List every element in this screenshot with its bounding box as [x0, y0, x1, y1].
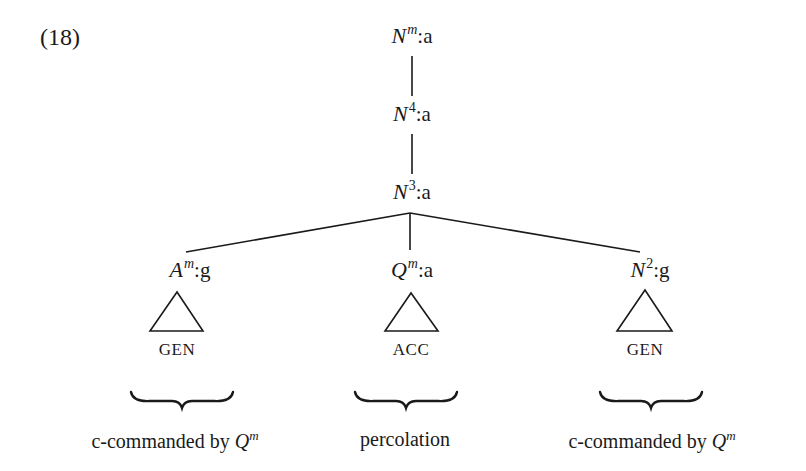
underbrace-icon [355, 392, 457, 408]
annotation-right-sup: m [726, 428, 735, 443]
annotation-right-symbol: Q [712, 430, 726, 452]
tree-lines [0, 0, 806, 471]
leaf-gen-left: GEN [159, 340, 195, 360]
underbrace-icon [600, 392, 702, 408]
underbrace-icon [131, 392, 233, 408]
triangle-icon [150, 292, 203, 331]
triangle-icon [617, 290, 672, 331]
annotation-left-symbol: Q [235, 430, 249, 452]
triangle-icon [385, 293, 438, 331]
annotation-right: c-commanded by Qm [568, 428, 735, 453]
annotation-left-text: c-commanded by [91, 430, 229, 452]
edge-level3-child-a [186, 213, 410, 252]
leaf-acc: ACC [393, 340, 429, 360]
annotation-right-text: c-commanded by [568, 430, 706, 452]
annotation-middle-text: percolation [360, 428, 450, 450]
edge-level3-child-n2 [410, 213, 640, 252]
annotation-left: c-commanded by Qm [91, 428, 258, 453]
leaf-gen-right: GEN [627, 340, 663, 360]
annotation-middle: percolation [360, 428, 450, 451]
annotation-left-sup: m [249, 428, 258, 443]
